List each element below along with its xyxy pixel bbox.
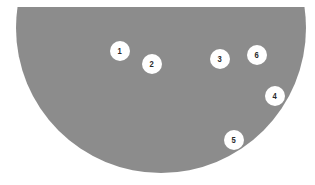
marker-6: 6: [247, 45, 267, 65]
marker-1: 1: [110, 41, 130, 61]
gray-semicircle: [16, 7, 306, 173]
marker-label: 4: [273, 92, 277, 101]
marker-2: 2: [142, 54, 162, 74]
marker-label: 5: [232, 136, 236, 145]
marker-label: 6: [255, 51, 259, 60]
marker-3: 3: [210, 49, 230, 69]
marker-label: 1: [118, 47, 122, 56]
marker-label: 2: [150, 60, 154, 69]
marker-5: 5: [224, 130, 244, 150]
diagram: 1 2 3 4 5 6: [0, 0, 315, 185]
marker-label: 3: [218, 55, 222, 64]
marker-4: 4: [265, 86, 285, 106]
